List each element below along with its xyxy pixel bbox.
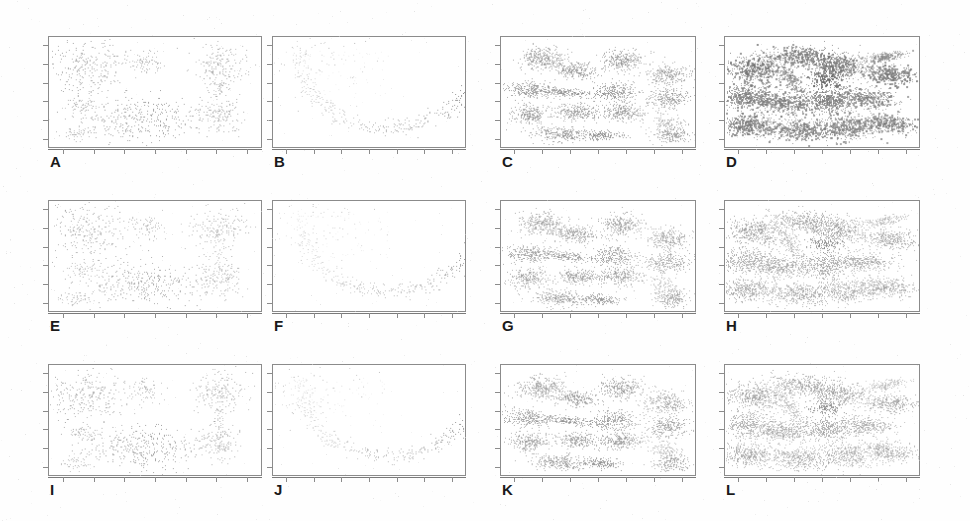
- x-axis-ticks-f: [272, 313, 466, 321]
- x-tick: [542, 313, 543, 318]
- x-tick: [341, 313, 342, 318]
- x-tick: [424, 313, 425, 318]
- x-tick: [514, 313, 515, 318]
- x-tick: [314, 477, 315, 482]
- x-tick: [397, 477, 398, 482]
- panel-frame-h: [724, 200, 920, 312]
- x-tick: [452, 477, 453, 482]
- x-tick: [94, 149, 95, 154]
- scatter-canvas-e: [49, 201, 261, 311]
- scatter-canvas-h: [725, 201, 919, 311]
- x-tick: [186, 477, 187, 482]
- x-tick: [794, 149, 795, 154]
- x-tick: [626, 477, 627, 482]
- x-tick: [186, 149, 187, 154]
- x-axis-ticks-j: [272, 477, 466, 485]
- x-axis-ticks-i: [48, 477, 262, 485]
- scatter-panel-i: [48, 364, 262, 476]
- x-tick: [654, 313, 655, 318]
- x-tick: [598, 149, 599, 154]
- x-tick: [570, 149, 571, 154]
- x-tick: [682, 313, 683, 318]
- x-axis-line: [500, 149, 696, 150]
- x-tick: [766, 313, 767, 318]
- x-axis-line: [272, 477, 466, 478]
- x-axis-line: [272, 149, 466, 150]
- x-tick: [878, 149, 879, 154]
- x-tick: [369, 313, 370, 318]
- panel-frame-g: [500, 200, 696, 312]
- x-tick: [850, 313, 851, 318]
- x-tick: [247, 149, 248, 154]
- x-tick: [155, 149, 156, 154]
- panel-label-c: C: [502, 154, 513, 169]
- panel-label-b: B: [274, 154, 285, 169]
- scatter-panel-a: [48, 36, 262, 148]
- x-tick: [424, 477, 425, 482]
- x-axis-ticks-b: [272, 149, 466, 157]
- x-tick: [94, 477, 95, 482]
- x-tick: [94, 313, 95, 318]
- panel-label-d: D: [726, 154, 737, 169]
- x-tick: [626, 313, 627, 318]
- x-tick: [906, 149, 907, 154]
- panel-label-l: L: [726, 482, 735, 497]
- scatter-canvas-k: [501, 365, 695, 475]
- x-axis-line: [48, 477, 262, 478]
- x-axis-line: [48, 149, 262, 150]
- x-tick: [738, 477, 739, 482]
- x-axis-ticks-d: [724, 149, 920, 157]
- x-axis-ticks-l: [724, 477, 920, 485]
- scatter-panel-d: [724, 36, 920, 148]
- scatter-canvas-a: [49, 37, 261, 147]
- x-tick: [570, 477, 571, 482]
- x-tick: [542, 149, 543, 154]
- x-tick: [514, 149, 515, 154]
- x-tick: [794, 477, 795, 482]
- x-tick: [850, 149, 851, 154]
- panel-frame-j: [272, 364, 466, 476]
- x-tick: [850, 477, 851, 482]
- x-tick: [155, 477, 156, 482]
- x-tick: [822, 313, 823, 318]
- x-tick: [186, 313, 187, 318]
- x-tick: [341, 149, 342, 154]
- scatter-canvas-j: [273, 365, 465, 475]
- panel-frame-f: [272, 200, 466, 312]
- panel-frame-b: [272, 36, 466, 148]
- scatter-panel-e: [48, 200, 262, 312]
- x-tick: [369, 477, 370, 482]
- x-tick: [514, 477, 515, 482]
- panel-frame-l: [724, 364, 920, 476]
- x-tick: [247, 477, 248, 482]
- scatter-canvas-d: [725, 37, 919, 147]
- x-tick: [63, 477, 64, 482]
- x-axis-line: [48, 313, 262, 314]
- scatter-panel-l: [724, 364, 920, 476]
- panel-label-i: I: [50, 482, 54, 497]
- panel-label-k: K: [502, 482, 513, 497]
- x-tick: [216, 477, 217, 482]
- x-tick: [286, 313, 287, 318]
- x-axis-ticks-g: [500, 313, 696, 321]
- x-tick: [822, 149, 823, 154]
- x-tick: [738, 149, 739, 154]
- panel-label-j: J: [274, 482, 282, 497]
- x-tick: [542, 477, 543, 482]
- x-tick: [216, 313, 217, 318]
- x-tick: [682, 477, 683, 482]
- x-axis-line: [272, 313, 466, 314]
- panel-frame-d: [724, 36, 920, 148]
- scatter-panel-b: [272, 36, 466, 148]
- panel-frame-k: [500, 364, 696, 476]
- scatter-canvas-i: [49, 365, 261, 475]
- scatter-panel-f: [272, 200, 466, 312]
- panel-frame-a: [48, 36, 262, 148]
- x-tick: [654, 477, 655, 482]
- x-tick: [424, 149, 425, 154]
- x-tick: [682, 149, 683, 154]
- x-tick: [369, 149, 370, 154]
- x-tick: [286, 477, 287, 482]
- panel-frame-c: [500, 36, 696, 148]
- x-tick: [452, 313, 453, 318]
